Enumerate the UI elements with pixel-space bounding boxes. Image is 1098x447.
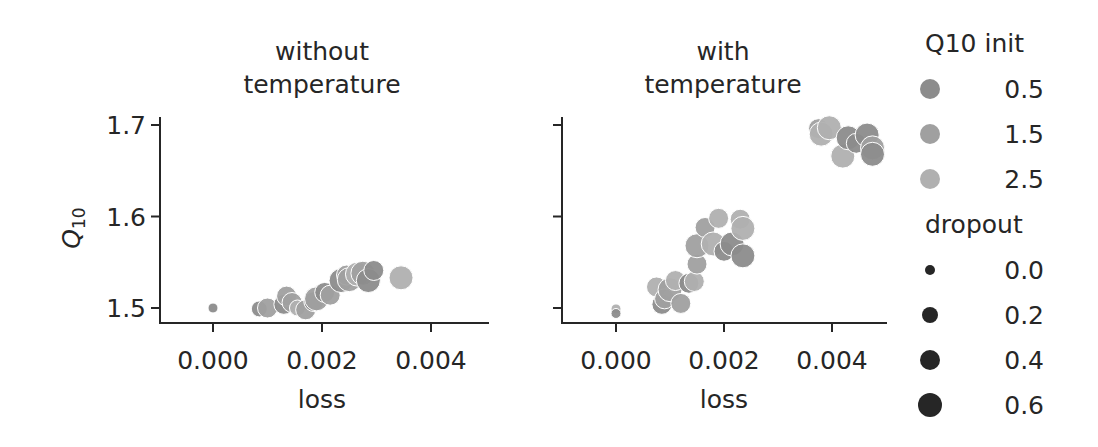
data-point: [709, 208, 729, 228]
legend-label: 0.2: [1004, 301, 1044, 330]
x-axis-label: loss: [700, 385, 748, 414]
y-tick-label: 1.7: [106, 111, 146, 140]
panel-title: with: [696, 37, 749, 66]
data-point: [861, 142, 885, 166]
x-tick-label: 0.002: [286, 346, 358, 375]
legend-marker: [922, 307, 938, 323]
legend-label: 0.6: [1004, 391, 1044, 420]
panel-title: temperature: [644, 70, 801, 99]
legend-marker: [920, 169, 940, 189]
data-point: [684, 271, 704, 291]
panel-with-temperature: withtemperature0.0000.0020.004loss: [553, 37, 887, 414]
legend-marker: [918, 393, 942, 417]
legend: Q10 init0.51.52.5dropout0.00.20.40.6: [918, 29, 1044, 420]
data-point: [731, 244, 755, 268]
legend-label: 1.5: [1004, 120, 1044, 149]
panel-without-temperature: withouttemperature1.51.61.70.0000.0020.0…: [57, 37, 489, 414]
x-axis-label: loss: [298, 385, 346, 414]
y-tick-label: 1.6: [106, 203, 146, 232]
data-point: [364, 260, 384, 280]
legend-marker: [920, 124, 940, 144]
legend-label: 0.0: [1004, 256, 1044, 285]
x-tick-label: 0.002: [688, 346, 760, 375]
data-point: [389, 266, 413, 290]
legend-marker: [920, 350, 940, 370]
legend-title-dropout: dropout: [925, 210, 1023, 239]
legend-title-q10: Q10 init: [925, 29, 1024, 58]
x-tick-label: 0.000: [177, 346, 249, 375]
x-tick-label: 0.004: [395, 346, 467, 375]
legend-marker: [920, 79, 940, 99]
panel-title: temperature: [243, 70, 400, 99]
x-tick-label: 0.000: [580, 346, 652, 375]
panel-title: without: [275, 37, 369, 66]
data-point: [208, 303, 218, 313]
legend-marker: [925, 265, 935, 275]
legend-label: 2.5: [1004, 165, 1044, 194]
legend-label: 0.4: [1004, 346, 1044, 375]
legend-label: 0.5: [1004, 75, 1044, 104]
y-tick-label: 1.5: [106, 294, 146, 323]
data-point: [671, 293, 691, 313]
y-axis-label: Q10: [57, 207, 89, 248]
data-point: [731, 216, 755, 240]
scatter-figure: withouttemperature1.51.61.70.0000.0020.0…: [0, 0, 1098, 447]
x-tick-label: 0.004: [796, 346, 868, 375]
data-point: [611, 308, 621, 318]
